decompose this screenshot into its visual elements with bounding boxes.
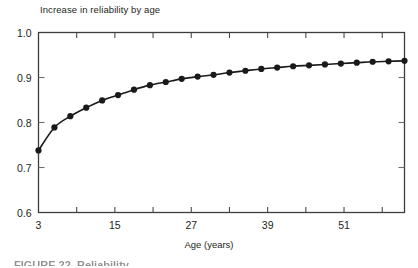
x-axis-tick-labels: 315273951 bbox=[36, 219, 350, 231]
y-tick-label: 1.0 bbox=[17, 27, 32, 39]
data-point bbox=[35, 147, 41, 153]
data-point bbox=[179, 76, 185, 82]
data-point bbox=[370, 59, 376, 65]
chart-plot: 0.60.70.80.91.0 315273951 Age (years) bbox=[0, 0, 418, 268]
data-point bbox=[147, 82, 153, 88]
data-point bbox=[115, 92, 121, 98]
y-tick-label: 0.8 bbox=[17, 117, 32, 129]
x-tick-label: 15 bbox=[109, 219, 121, 231]
data-point bbox=[195, 74, 201, 80]
y-tick-label: 0.6 bbox=[17, 207, 32, 219]
data-point bbox=[306, 62, 312, 68]
plot-frame bbox=[39, 33, 405, 213]
data-point bbox=[210, 72, 216, 78]
figure-caption-text: FIGURE 22. Reliability bbox=[14, 259, 129, 266]
data-point bbox=[131, 87, 137, 93]
data-point bbox=[322, 61, 328, 67]
x-axis-title: Age (years) bbox=[184, 239, 233, 250]
figure-container: Increase in reliability by age 0.60.70.8… bbox=[0, 0, 418, 268]
data-point bbox=[242, 68, 248, 74]
data-point bbox=[99, 97, 105, 103]
axis-ticks bbox=[39, 33, 405, 213]
data-point bbox=[338, 60, 344, 66]
y-tick-label: 0.9 bbox=[17, 72, 32, 84]
data-point bbox=[290, 63, 296, 69]
data-point bbox=[401, 58, 407, 64]
data-point bbox=[163, 79, 169, 85]
data-point bbox=[258, 66, 264, 72]
y-axis-tick-labels: 0.60.70.80.91.0 bbox=[17, 27, 32, 219]
data-point bbox=[385, 58, 391, 64]
figure-caption-cropped: FIGURE 22. Reliability bbox=[14, 258, 314, 266]
x-tick-label: 27 bbox=[185, 219, 197, 231]
x-tick-label: 39 bbox=[262, 219, 274, 231]
data-point bbox=[51, 124, 57, 130]
x-tick-label: 51 bbox=[338, 219, 350, 231]
x-tick-label: 3 bbox=[36, 219, 42, 231]
data-point bbox=[226, 69, 232, 75]
data-series-line bbox=[39, 61, 405, 151]
data-point bbox=[274, 65, 280, 71]
data-point bbox=[83, 105, 89, 111]
data-point bbox=[354, 60, 360, 66]
y-tick-label: 0.7 bbox=[17, 162, 32, 174]
data-point bbox=[67, 113, 73, 119]
